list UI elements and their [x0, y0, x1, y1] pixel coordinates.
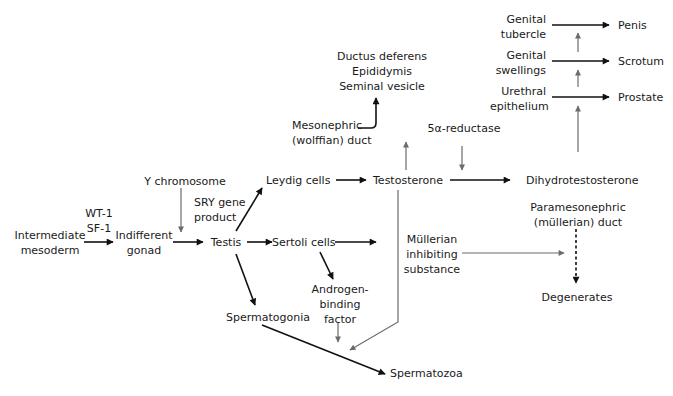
node-testis: Testis	[204, 235, 248, 250]
label-wt1-sf1: WT-1 SF-1	[84, 206, 114, 236]
arrow-testis-to-spermatogonia	[236, 254, 255, 305]
arrow-sertoli-to-abf	[320, 252, 333, 279]
node-scrotum: Scrotum	[618, 54, 673, 69]
node-urethral-epithelium: Urethral epithelium	[490, 84, 546, 114]
node-y-chromosome: Y chromosome	[140, 174, 230, 189]
node-androgen-binding-factor: Androgen- binding factor	[308, 282, 372, 327]
node-spermatogonia: Spermatogonia	[220, 310, 316, 325]
arrow-spermatogonia-to-spermatozoa	[262, 325, 385, 374]
node-mesonephric-duct: Mesonephric (wolffian) duct	[292, 118, 362, 148]
node-paramesonephric-duct: Paramesonephric (müllerian) duct	[528, 200, 628, 230]
node-sertoli-cells: Sertoli cells	[272, 235, 338, 250]
node-leydig-cells: Leydig cells	[266, 173, 338, 188]
node-degenerates: Degenerates	[536, 290, 618, 305]
node-genital-swellings: Genital swellings	[490, 48, 546, 78]
node-5alpha-reductase: 5α-reductase	[426, 121, 502, 136]
node-penis: Penis	[618, 18, 673, 33]
node-intermediate-mesoderm: Intermediate mesoderm	[14, 228, 86, 258]
node-dihydrotestosterone: Dihydrotestosterone	[526, 173, 646, 188]
node-testosterone: Testosterone	[364, 173, 452, 188]
node-sry-gene-product: SRY gene product	[194, 195, 254, 225]
node-wolffian-derivatives: Ductus deferens Epididymis Seminal vesic…	[332, 49, 432, 94]
node-indifferent-gonad: Indifferent gonad	[113, 228, 175, 258]
node-mullerian-inhibiting-substance: Müllerian inhibiting substance	[400, 232, 464, 277]
sexual-differentiation-diagram: Intermediate mesoderm WT-1 SF-1 Indiffer…	[0, 0, 673, 396]
node-genital-tubercle: Genital tubercle	[490, 12, 546, 42]
node-spermatozoa: Spermatozoa	[390, 366, 480, 381]
node-prostate: Prostate	[618, 90, 673, 105]
